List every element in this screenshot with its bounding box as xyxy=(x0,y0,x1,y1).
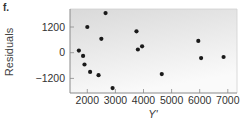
plot-area xyxy=(70,9,237,93)
data-point xyxy=(134,29,138,33)
x-tick-label: 6000 xyxy=(188,94,212,106)
data-point xyxy=(85,25,89,29)
x-tick-label: 2000 xyxy=(76,94,100,106)
x-tick-label: 4000 xyxy=(132,94,156,106)
data-point xyxy=(199,56,203,60)
data-point xyxy=(99,37,103,41)
scatter-plot: 200030004000500060007000−120001200 xyxy=(0,0,245,125)
data-point xyxy=(136,47,140,51)
data-point xyxy=(221,55,225,59)
data-point xyxy=(82,62,86,66)
data-point xyxy=(196,39,200,43)
x-tick-label: 7000 xyxy=(216,94,240,106)
data-point xyxy=(77,48,81,52)
x-tick-label: 3000 xyxy=(104,94,128,106)
y-tick-label: 1200 xyxy=(42,21,66,33)
y-tick-label: −1200 xyxy=(36,72,66,84)
data-point xyxy=(103,11,107,15)
data-point xyxy=(140,44,144,48)
data-point xyxy=(160,72,164,76)
y-tick-label: 0 xyxy=(59,46,65,58)
data-point xyxy=(81,54,85,58)
x-tick-label: 5000 xyxy=(160,94,184,106)
data-point xyxy=(96,73,100,77)
data-point xyxy=(110,86,114,90)
data-point xyxy=(88,70,92,74)
